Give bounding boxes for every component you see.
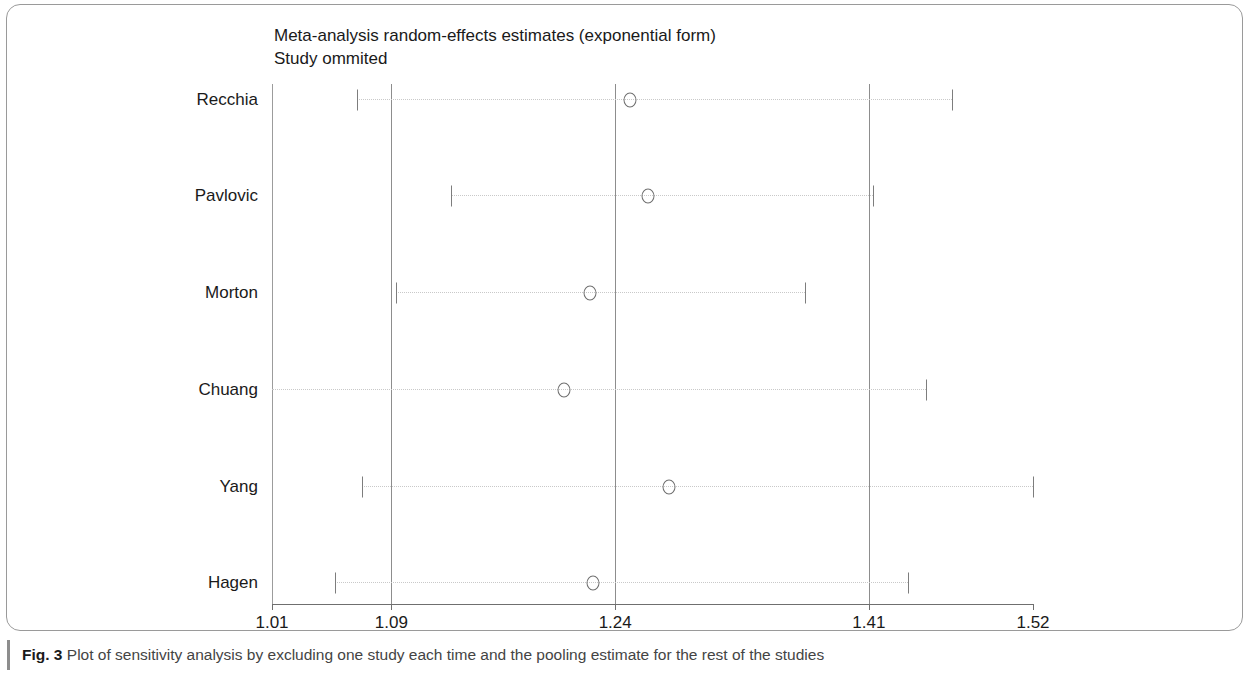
confidence-interval-band (362, 486, 1033, 488)
x-axis-tick (391, 604, 392, 610)
x-axis-tick (869, 604, 870, 610)
ci-cap-upper (926, 380, 927, 401)
estimate-marker-pavlovic (642, 189, 655, 204)
ci-cap-lower (451, 186, 452, 207)
plot-area: RecchiaPavlovicMortonChuangYangHagen1.01… (0, 0, 1249, 631)
ci-cap-upper (908, 573, 909, 594)
ci-cap-lower (362, 477, 363, 498)
ci-cap-upper (1033, 477, 1034, 498)
y-axis-label-recchia: Recchia (158, 90, 258, 110)
figure-number: Fig. 3 (22, 646, 62, 663)
reference-line-109 (391, 84, 392, 604)
reference-line-124 (615, 84, 616, 604)
x-axis-tick-label: 1.01 (255, 613, 288, 633)
x-axis-tick-label: 1.24 (599, 613, 632, 633)
estimate-marker-yang (662, 480, 675, 495)
x-axis-tick-label: 1.52 (1016, 613, 1049, 633)
figure-caption-text: Plot of sensitivity analysis by excludin… (62, 646, 824, 663)
y-axis-label-pavlovic: Pavlovic (158, 186, 258, 206)
reference-line-141 (869, 84, 870, 604)
estimate-marker-chuang (558, 383, 571, 398)
confidence-interval-band (451, 195, 873, 197)
y-axis-label-chuang: Chuang (158, 380, 258, 400)
ci-cap-lower (357, 90, 358, 111)
estimate-marker-hagen (586, 576, 599, 591)
x-axis-line (272, 604, 1033, 605)
x-axis-tick-label: 1.09 (375, 613, 408, 633)
y-axis-label-morton: Morton (158, 283, 258, 303)
y-axis-label-yang: Yang (158, 477, 258, 497)
confidence-interval-band (396, 292, 805, 294)
plot-left-edge-line (272, 84, 273, 604)
ci-cap-upper (952, 90, 953, 111)
confidence-interval-band (272, 389, 926, 391)
y-axis-label-hagen: Hagen (158, 573, 258, 593)
estimate-marker-recchia (624, 93, 637, 108)
figure-caption: Fig. 3 Plot of sensitivity analysis by e… (6, 644, 1206, 665)
x-axis-tick (272, 604, 273, 610)
estimate-marker-morton (583, 286, 596, 301)
ci-cap-lower (335, 573, 336, 594)
x-axis-tick (615, 604, 616, 610)
x-axis-tick-label: 1.41 (852, 613, 885, 633)
ci-cap-upper (805, 283, 806, 304)
ci-cap-lower (396, 283, 397, 304)
confidence-interval-band (357, 99, 952, 101)
confidence-interval-band (335, 582, 908, 584)
x-axis-tick (1033, 604, 1034, 610)
ci-cap-upper (873, 186, 874, 207)
